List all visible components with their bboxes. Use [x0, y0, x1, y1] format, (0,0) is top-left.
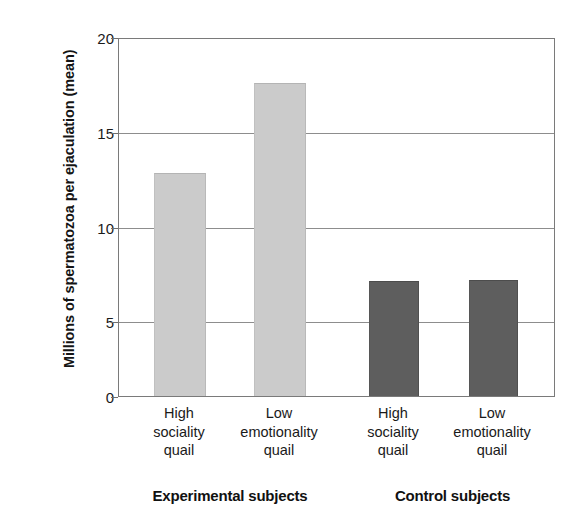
y-tick-label-10: 10: [74, 220, 114, 237]
bar-experimental-high-sociality[interactable]: [154, 173, 206, 396]
y-tick-mark-5: [111, 322, 118, 323]
x-category-label-4-line1: Low: [431, 404, 553, 423]
y-tick-mark-20: [111, 38, 118, 39]
x-category-label-4: Low emotionality quail: [431, 404, 553, 460]
y-tick-label-15: 15: [74, 125, 114, 142]
x-category-label-2-line2: emotionality: [218, 423, 340, 442]
y-tick-mark-10: [111, 228, 118, 229]
bar-experimental-low-emotionality[interactable]: [254, 83, 306, 396]
y-tick-label-5: 5: [74, 314, 114, 331]
y-tick-mark-15: [111, 133, 118, 134]
y-tick-label-0: 0: [74, 389, 114, 406]
bar-chart-figure: Millions of spermatozoa per ejaculation …: [0, 0, 587, 532]
bar-control-low-emotionality[interactable]: [469, 280, 518, 396]
group-label-experimental: Experimental subjects: [110, 487, 350, 504]
gridline-15: [119, 133, 554, 134]
y-tick-label-20: 20: [74, 30, 114, 47]
bar-control-high-sociality[interactable]: [369, 281, 419, 396]
group-label-control: Control subjects: [345, 487, 560, 504]
x-category-label-2-line1: Low: [218, 404, 340, 423]
plot-area: [118, 38, 555, 397]
x-category-label-4-line3: quail: [431, 441, 553, 460]
x-category-label-2: Low emotionality quail: [218, 404, 340, 460]
x-category-label-2-line3: quail: [218, 441, 340, 460]
x-category-label-4-line2: emotionality: [431, 423, 553, 442]
y-tick-mark-0: [111, 397, 118, 398]
